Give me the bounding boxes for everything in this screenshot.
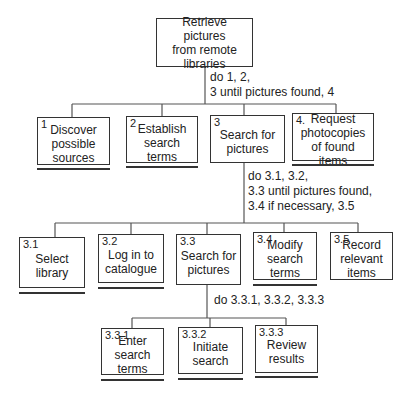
task-box-3-3-2: 3.3.2 Initiate search <box>178 327 243 374</box>
task-number: 3.3.2 <box>182 328 206 340</box>
task-box-3-3: 3.3 Search for pictures <box>176 234 241 285</box>
task-label: Request photocopies of found items <box>296 112 370 168</box>
task-number: 3.3 <box>180 235 195 247</box>
task-number: 3.2 <box>102 235 117 247</box>
task-label: Search for pictures <box>181 249 236 277</box>
leaf-underline <box>37 168 110 170</box>
task-label: Discover possible sources <box>50 123 97 165</box>
leaf-underline <box>126 166 198 168</box>
plan-0-annotation: do 1, 2, 3 until pictures found, 4 <box>210 70 334 100</box>
task-label: Select library <box>35 252 68 280</box>
task-number: 4. <box>296 114 305 126</box>
task-box-root: Retrieve pictures from remote libraries <box>156 18 253 67</box>
task-box-2: 2 Establish search terms <box>126 116 198 163</box>
task-box-3: 3 Search for pictures <box>210 115 285 163</box>
leaf-underline <box>98 287 164 289</box>
leaf-underline <box>292 164 374 166</box>
task-box-4: 4. Request photocopies of found items <box>292 113 374 161</box>
leaf-underline <box>19 292 85 294</box>
task-number: 3.3.3 <box>259 326 283 338</box>
task-box-3-3-1: 3.3.1 Enter search terms <box>101 328 164 375</box>
leaf-underline <box>101 379 164 381</box>
task-label: Review results <box>267 338 306 366</box>
task-label: Retrieve pictures from remote libraries <box>160 15 249 71</box>
leaf-underline <box>178 378 243 380</box>
task-label: Establish search terms <box>138 122 187 164</box>
task-box-3-2: 3.2 Log in to catalogue <box>98 234 164 283</box>
plan-3-3-annotation: do 3.3.1, 3.3.2, 3.3.3 <box>214 293 324 308</box>
plan-3-annotation: do 3.1, 3.2, 3.3 until pictures found, 3… <box>248 169 372 214</box>
task-box-3-1: 3.1 Select library <box>19 237 85 288</box>
task-number: 3 <box>214 116 220 128</box>
task-number: 3.5 <box>334 233 349 245</box>
task-box-1: 1 Discover possible sources <box>37 117 110 165</box>
task-label: Log in to catalogue <box>105 248 157 276</box>
task-number: 2 <box>130 117 136 129</box>
task-number: 3.4 <box>257 233 272 245</box>
task-box-3-5: 3.5 Record relevant items <box>330 232 393 280</box>
leaf-underline <box>255 376 318 378</box>
task-label: Search for pictures <box>220 128 275 156</box>
task-label: Initiate search <box>192 340 228 368</box>
task-number: 3.3.1 <box>105 329 129 341</box>
task-number: 1 <box>41 118 47 130</box>
leaf-underline <box>253 284 317 286</box>
task-box-3-4: 3.4 Modify search terms <box>253 232 317 280</box>
task-number: 3.1 <box>23 238 38 250</box>
task-box-3-3-3: 3.3.3 Review results <box>255 325 318 373</box>
